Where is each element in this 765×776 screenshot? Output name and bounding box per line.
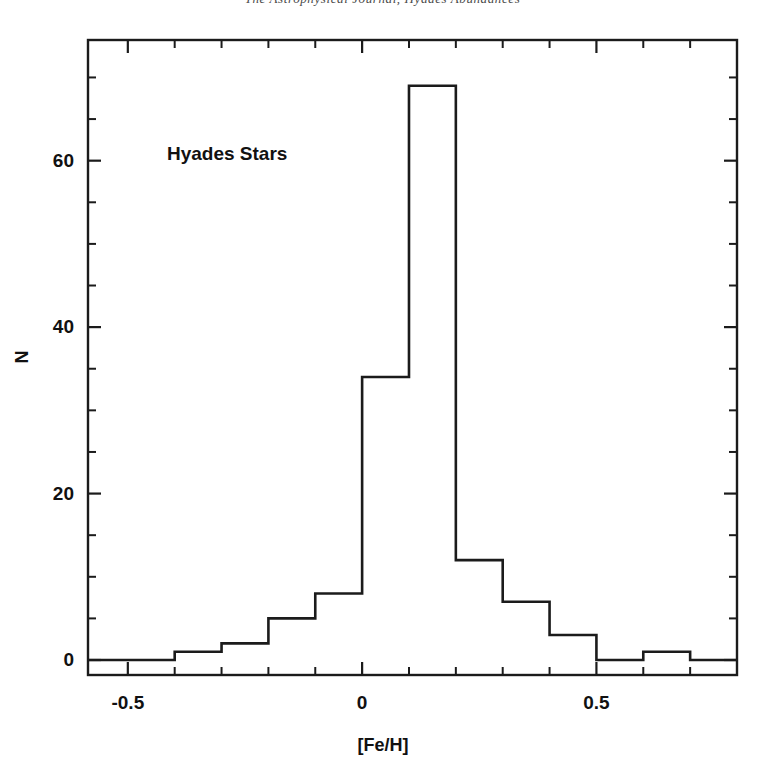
figure-hyades-metallicity-histogram: The Astrophysical Journal, Hyades Abunda…: [0, 0, 765, 776]
histogram-step-outline: [88, 86, 737, 660]
y-tick-label: 60: [53, 150, 74, 172]
y-axis-title: N: [12, 351, 33, 364]
x-axis-ticks: [128, 40, 737, 675]
plot-frame-box: [88, 40, 737, 675]
y-tick-label: 20: [53, 483, 74, 505]
x-tick-label: 0.5: [583, 692, 609, 714]
histogram-outline: [88, 86, 737, 660]
plot-frame: [88, 40, 737, 675]
x-axis-title: [Fe/H]: [358, 735, 409, 756]
x-tick-label: -0.5: [111, 692, 144, 714]
y-tick-label: 40: [53, 316, 74, 338]
plot-annotation-hyades-stars: Hyades Stars: [167, 143, 287, 165]
plot-canvas: [0, 0, 765, 776]
y-tick-label: 0: [63, 649, 74, 671]
x-tick-label: 0: [357, 692, 368, 714]
